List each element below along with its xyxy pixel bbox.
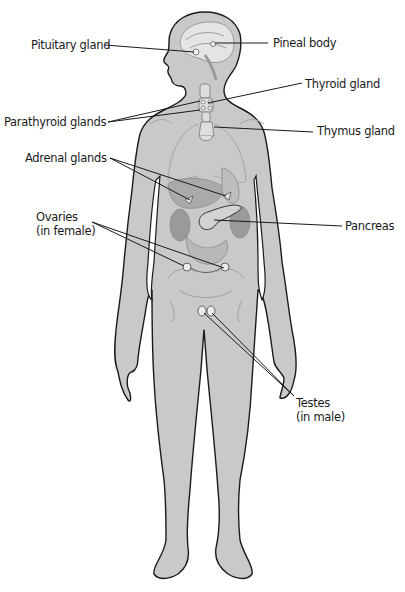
label-pineal-body: Pineal body <box>273 36 336 50</box>
label-ovaries: Ovaries (in female) <box>36 210 95 238</box>
label-testes-line1: Testes <box>296 396 345 410</box>
label-testes: Testes (in male) <box>296 396 345 424</box>
pineal-body <box>211 42 216 47</box>
label-ovaries-line1: Ovaries <box>36 210 95 224</box>
label-ovaries-line2: (in female) <box>36 224 95 238</box>
label-pituitary-gland: Pituitary gland <box>31 38 110 52</box>
label-testes-line2: (in male) <box>296 410 345 424</box>
label-adrenal-glands: Adrenal glands <box>25 151 107 165</box>
endocrine-diagram: Pituitary gland Pineal body Thyroid glan… <box>0 0 405 592</box>
label-pancreas: Pancreas <box>345 219 394 233</box>
label-parathyroid-glands: Parathyroid glands <box>4 115 106 129</box>
label-thymus-gland: Thymus gland <box>317 124 395 138</box>
label-thyroid-gland: Thyroid gland <box>305 77 380 91</box>
